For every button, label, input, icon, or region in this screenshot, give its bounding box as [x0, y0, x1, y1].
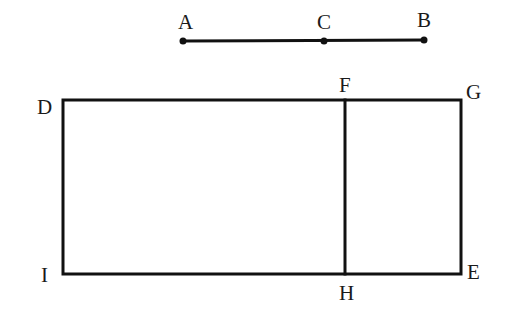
label-i: I [41, 263, 48, 287]
geometry-diagram: A C B D F G I H E [0, 0, 513, 317]
segment-ab: A C B [178, 8, 431, 45]
label-b: B [417, 8, 431, 32]
point-c [321, 38, 328, 45]
rectangle-outline [63, 100, 461, 274]
label-f: F [339, 73, 351, 97]
line-ab [183, 40, 424, 41]
label-c: C [317, 10, 331, 34]
rectangle-dgei: D F G I H E [37, 73, 481, 305]
label-g: G [466, 80, 481, 104]
label-h: H [339, 281, 354, 305]
point-b [421, 37, 428, 44]
label-a: A [178, 10, 194, 34]
point-a [180, 38, 187, 45]
label-e: E [467, 260, 480, 284]
label-d: D [37, 95, 52, 119]
